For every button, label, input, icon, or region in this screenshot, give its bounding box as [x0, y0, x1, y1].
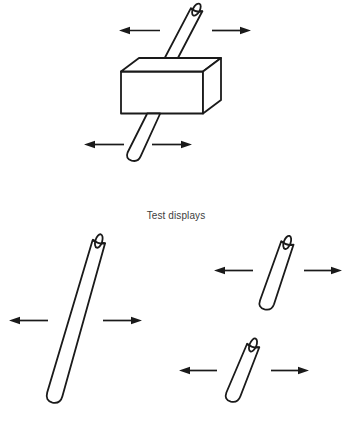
arrow-right-head — [331, 267, 342, 274]
arrow-bottom-right-head — [181, 141, 192, 148]
arrow-bottom-right — [152, 141, 192, 148]
arrow-top-right — [212, 27, 251, 34]
arrow-left-head — [214, 267, 225, 274]
test-displays-panel — [9, 233, 342, 403]
arrow-top-left-head — [119, 27, 130, 34]
arrow-top-right-head — [240, 27, 251, 34]
test-rod-complete-body — [47, 241, 105, 403]
test-rod-segment-upper — [214, 235, 342, 310]
test-rod-complete — [9, 233, 142, 403]
test-rod-segment-lower — [179, 337, 309, 402]
test-rod-segment-upper-arrow-left — [214, 267, 253, 274]
test-displays-caption: Test displays — [147, 210, 206, 221]
arrow-left-head — [179, 367, 190, 374]
test-rod-complete-arrow-right — [103, 317, 142, 324]
figure-root: Test displays — [0, 0, 352, 425]
arrow-right-head — [298, 367, 309, 374]
test-rod-segment-upper-body — [259, 242, 293, 310]
arrow-bottom-left-head — [84, 141, 95, 148]
test-rod-segment-lower-arrow-left — [179, 367, 217, 374]
arrow-bottom-left — [84, 141, 124, 148]
test-rod-complete-arrow-left — [9, 317, 48, 324]
arrow-left-head — [9, 317, 20, 324]
figure-canvas: Test displays — [0, 0, 352, 425]
rod-lower-body — [127, 114, 160, 162]
test-rod-segment-lower-arrow-right — [271, 367, 309, 374]
arrow-top-left — [119, 27, 160, 34]
rod-lower-segment — [127, 114, 160, 162]
arrow-right-head — [131, 317, 142, 324]
test-rod-segment-lower-body — [226, 345, 260, 402]
rod-and-box-occlusion-display — [84, 2, 251, 161]
test-rod-segment-upper-arrow-right — [304, 267, 342, 274]
occluder-box — [121, 58, 221, 114]
box-front-face — [121, 72, 203, 114]
